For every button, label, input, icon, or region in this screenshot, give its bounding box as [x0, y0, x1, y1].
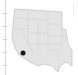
location-marker-icon[interactable]: [21, 51, 26, 56]
western-us-map: [0, 0, 78, 75]
